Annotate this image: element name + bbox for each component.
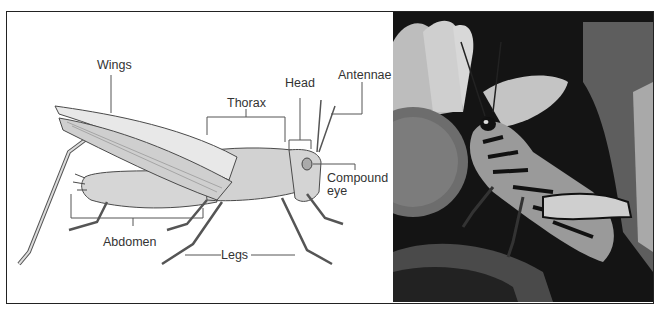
figure-frame: Wings Thorax Head Antennae Compound eye … <box>6 11 654 304</box>
label-wings: Wings <box>97 58 132 72</box>
grasshopper-diagram: Wings Thorax Head Antennae Compound eye … <box>7 12 391 302</box>
label-head: Head <box>285 76 315 90</box>
label-antennae: Antennae <box>338 68 392 82</box>
label-thorax: Thorax <box>227 96 266 110</box>
label-legs: Legs <box>221 248 248 262</box>
label-compound-eye-line2: eye <box>327 184 347 198</box>
label-compound-eye-line1: Compound <box>327 171 388 185</box>
photo-illustration <box>393 12 653 302</box>
label-abdomen: Abdomen <box>103 235 157 249</box>
grasshopper-photo <box>393 12 653 302</box>
grasshopper-illustration <box>7 12 391 302</box>
